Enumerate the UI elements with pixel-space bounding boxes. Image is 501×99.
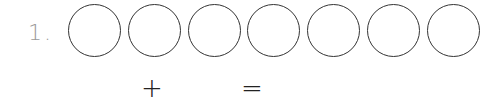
plus-sign: +: [141, 75, 163, 99]
circle-row: [68, 4, 487, 57]
equals-sign: =: [241, 75, 263, 99]
circle-6: [367, 4, 420, 57]
circle-1: [68, 4, 121, 57]
circle-7: [427, 4, 480, 57]
circle-3: [188, 4, 241, 57]
circle-2: [128, 4, 181, 57]
problem-number: 1.: [28, 22, 53, 44]
circle-4: [247, 4, 300, 57]
circle-5: [307, 4, 360, 57]
